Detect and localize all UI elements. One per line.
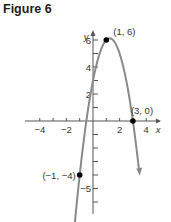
data-point xyxy=(104,37,110,43)
x-tick-label: −4 xyxy=(34,124,45,135)
x-tick-label: 2 xyxy=(117,124,122,135)
point-label: (1, 6) xyxy=(113,26,135,37)
parabola-plot: −4−224642−5xy(−1, −4)(1, 6)(3, 0) xyxy=(0,0,171,222)
x-axis-label: x xyxy=(155,124,162,135)
x-axis-arrow-icon xyxy=(156,119,161,124)
x-tick-label: −2 xyxy=(61,124,72,135)
data-point xyxy=(130,118,136,124)
y-axis-arrow-icon xyxy=(91,30,96,36)
y-tick-label: 4 xyxy=(86,62,91,73)
curve-arrow-right-icon xyxy=(136,168,142,176)
point-label: (−1, −4) xyxy=(42,170,75,181)
parabola-curve xyxy=(74,38,140,222)
point-label: (3, 0) xyxy=(131,105,153,116)
y-tick-label: −5 xyxy=(80,183,91,194)
data-point xyxy=(77,172,83,178)
x-tick-label: 4 xyxy=(144,124,149,135)
